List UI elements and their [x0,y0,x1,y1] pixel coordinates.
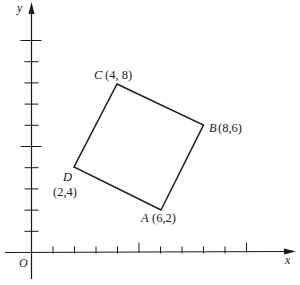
vertex-a-coords: (6,2) [152,211,176,225]
coordinate-diagram: y x O C (4, 8) B (8,6) A (6,2) D (2,4) [0,0,300,285]
x-axis [5,252,288,253]
vertex-label-a: A (6,2) [140,211,176,225]
vertex-c-name: C [94,68,103,82]
vertex-d-name: D [62,170,72,184]
y-axis-arrow-icon [29,2,35,14]
vertex-b-name: B [209,121,217,135]
vertex-label-d: D (2,4) [53,170,77,199]
vertex-a-name: A [140,211,149,225]
vertex-label-b: B (8,6) [209,121,242,135]
vertex-c-coords: (4, 8) [105,68,132,82]
vertex-label-c: C (4, 8) [94,68,132,82]
x-axis-label: x [284,253,291,267]
square-abcd [74,84,204,210]
origin-label: O [19,256,28,270]
y-axis-label: y [16,1,23,15]
diagram-canvas: y x O C (4, 8) B (8,6) A (6,2) D (2,4) [0,0,300,285]
vertex-b-coords: (8,6) [218,121,242,135]
vertex-d-coords: (2,4) [53,185,77,199]
